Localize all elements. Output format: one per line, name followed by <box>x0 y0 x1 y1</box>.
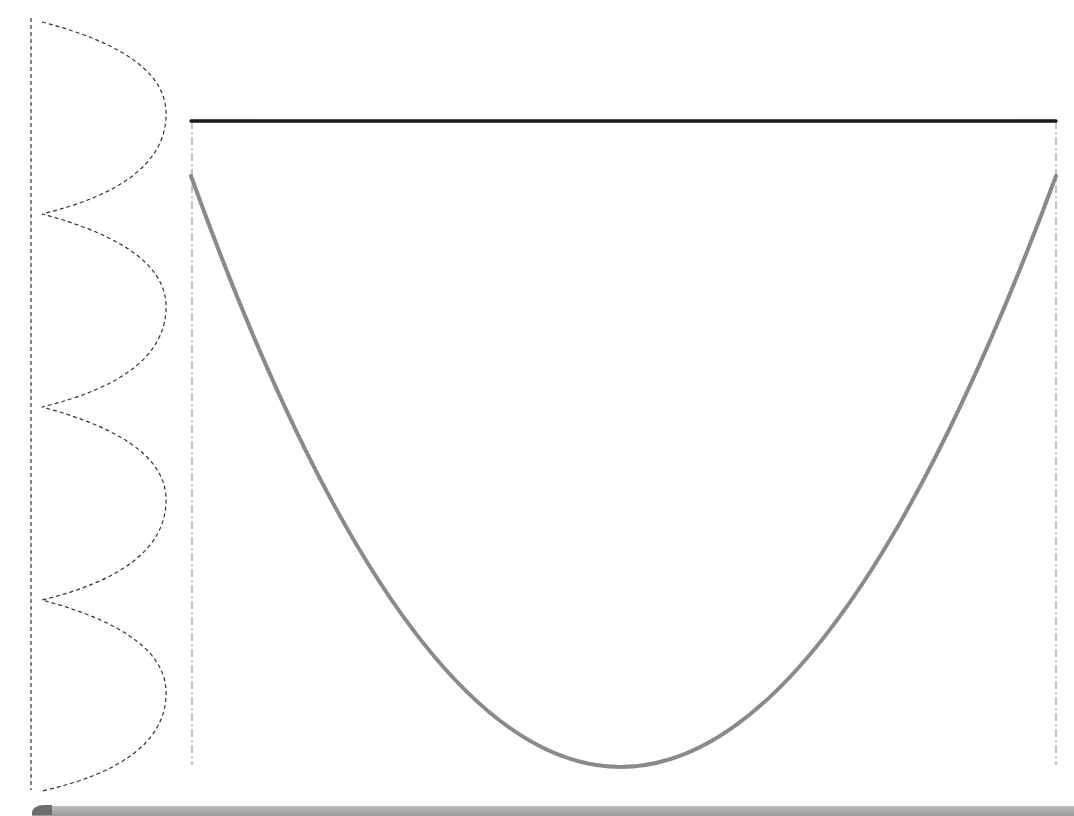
bottom-bar-cap <box>32 805 52 815</box>
bottom-bar <box>32 806 1074 816</box>
parabola-curve <box>191 176 1056 767</box>
wave-lobes <box>42 22 166 791</box>
